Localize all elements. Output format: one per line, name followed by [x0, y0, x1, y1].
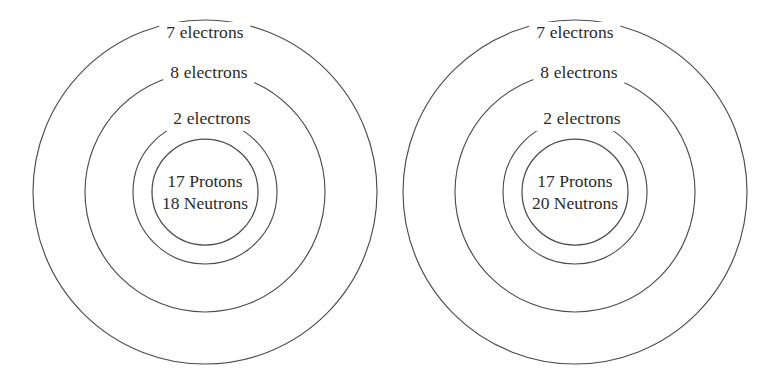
nucleus-protons-label: 17 Protons — [532, 170, 618, 192]
shell-2-label: 8 electrons — [163, 62, 254, 85]
atom-diagram-chlorine-35: 7 electrons 8 electrons 2 electrons 17 P… — [0, 0, 390, 382]
nucleus-neutrons-label: 18 Neutrons — [162, 192, 248, 214]
shell-3-label: 7 electrons — [159, 22, 250, 45]
nucleus-composition-text: 17 Protons 20 Neutrons — [532, 170, 618, 215]
nucleus-protons-label: 17 Protons — [162, 170, 248, 192]
shell-3-label: 7 electrons — [529, 22, 620, 45]
nucleus-neutrons-label: 20 Neutrons — [532, 192, 618, 214]
shell-2-label: 8 electrons — [533, 62, 624, 85]
shell-1-label: 2 electrons — [536, 108, 627, 131]
nucleus-composition-text: 17 Protons 18 Neutrons — [162, 170, 248, 215]
atom-diagram-chlorine-37: 7 electrons 8 electrons 2 electrons 17 P… — [390, 0, 780, 382]
bohr-model-figure: 7 electrons 8 electrons 2 electrons 17 P… — [0, 0, 780, 382]
shell-1-label: 2 electrons — [166, 108, 257, 131]
